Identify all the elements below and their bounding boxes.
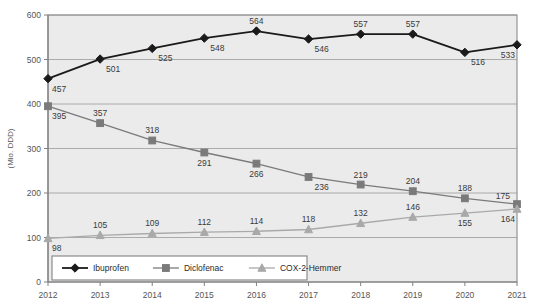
data-label: 548 bbox=[210, 43, 224, 53]
marker-square bbox=[201, 149, 208, 156]
marker-square bbox=[461, 195, 468, 202]
marker-square bbox=[357, 181, 364, 188]
chart-canvas: 0100200300400500600201220132014201520162… bbox=[0, 0, 537, 308]
marker-square bbox=[253, 160, 260, 167]
marker-square bbox=[45, 103, 52, 110]
data-label: 219 bbox=[354, 170, 368, 180]
y-tick-label: 200 bbox=[27, 188, 41, 198]
data-label: 105 bbox=[93, 220, 107, 230]
x-tick-label: 2017 bbox=[299, 290, 318, 300]
data-label: 525 bbox=[158, 53, 172, 63]
y-tick-label: 500 bbox=[27, 55, 41, 65]
marker-square bbox=[149, 137, 156, 144]
data-label: 112 bbox=[198, 217, 212, 227]
data-label: 357 bbox=[93, 108, 107, 118]
legend-label: Diclofenac bbox=[184, 263, 224, 273]
data-label: 501 bbox=[106, 64, 120, 74]
data-label: 395 bbox=[52, 111, 66, 121]
data-label: 291 bbox=[197, 158, 211, 168]
y-axis-ticks: 0100200300400500600 bbox=[27, 10, 48, 287]
legend-item-diclofenac[interactable]: Diclofenac bbox=[153, 263, 224, 273]
x-tick-label: 2013 bbox=[91, 290, 110, 300]
x-tick-label: 2020 bbox=[455, 290, 474, 300]
data-label: 204 bbox=[406, 176, 420, 186]
data-label: 318 bbox=[145, 125, 159, 135]
legend-label: COX-2-Hemmer bbox=[280, 263, 342, 273]
data-label: 546 bbox=[315, 44, 329, 54]
x-tick-label: 2014 bbox=[143, 290, 162, 300]
data-label: 564 bbox=[249, 16, 263, 26]
marker-square bbox=[305, 174, 312, 181]
data-label: 533 bbox=[501, 50, 515, 60]
data-label: 114 bbox=[250, 216, 264, 226]
x-tick-label: 2015 bbox=[195, 290, 214, 300]
x-tick-label: 2018 bbox=[351, 290, 370, 300]
line-chart: 0100200300400500600201220132014201520162… bbox=[0, 0, 537, 308]
data-label: 155 bbox=[458, 218, 472, 228]
y-tick-label: 0 bbox=[36, 277, 41, 287]
marker-square bbox=[409, 188, 416, 195]
y-tick-label: 400 bbox=[27, 99, 41, 109]
data-label: 109 bbox=[145, 218, 159, 228]
chart-legend: IbuprofenDiclofenacCOX-2-Hemmer bbox=[52, 256, 341, 280]
data-label: 236 bbox=[315, 182, 329, 192]
x-tick-label: 2021 bbox=[508, 290, 527, 300]
x-axis-ticks: 2012201320142015201620172018201920202021 bbox=[39, 282, 527, 300]
data-label: 516 bbox=[471, 57, 485, 67]
y-tick-label: 300 bbox=[27, 144, 41, 154]
data-label: 557 bbox=[354, 19, 368, 29]
data-label: 457 bbox=[52, 84, 66, 94]
y-tick-label: 600 bbox=[27, 10, 41, 20]
data-label: 266 bbox=[249, 169, 263, 179]
legend-label: Ibuprofen bbox=[93, 263, 129, 273]
y-tick-label: 100 bbox=[27, 233, 41, 243]
data-label: 164 bbox=[501, 214, 515, 224]
data-label: 132 bbox=[354, 208, 368, 218]
x-tick-label: 2019 bbox=[403, 290, 422, 300]
data-label: 557 bbox=[406, 19, 420, 29]
legend-item-cox-2-hemmer[interactable]: COX-2-Hemmer bbox=[249, 263, 342, 273]
x-tick-label: 2016 bbox=[247, 290, 266, 300]
marker-square bbox=[163, 265, 170, 272]
data-label: 175 bbox=[496, 191, 510, 201]
data-label: 98 bbox=[52, 243, 62, 253]
data-label: 146 bbox=[406, 202, 420, 212]
marker-square bbox=[97, 120, 104, 127]
data-label: 188 bbox=[458, 183, 472, 193]
y-axis-title: (Mio. DDD) bbox=[6, 128, 15, 168]
x-tick-label: 2012 bbox=[39, 290, 58, 300]
data-label: 118 bbox=[302, 214, 316, 224]
